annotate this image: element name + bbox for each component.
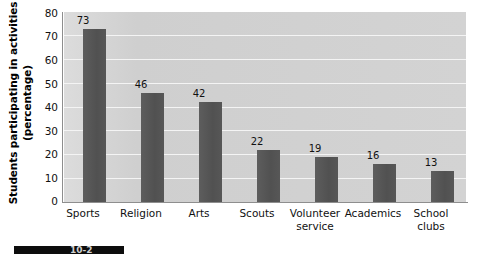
y-tick-label-70: 70 [36, 30, 58, 42]
x-tick-label-school-clubs-line-2: clubs [417, 220, 444, 232]
bar-volunteer-service[interactable] [315, 157, 338, 202]
gridline-60 [64, 59, 466, 60]
caption-text: 10-2 [70, 246, 93, 254]
y-axis-title-text: Students participating in activities(per… [6, 1, 34, 204]
x-tick-label-school-clubs: Schoolclubs [396, 207, 466, 232]
y-tick-label-0: 0 [36, 195, 58, 207]
bar-value-religion: 46 [121, 79, 161, 90]
y-tick-label-20: 20 [36, 148, 58, 160]
x-tick-label-academics-line-1: Academics [345, 207, 402, 219]
caption-bar: 10-2 [14, 246, 124, 254]
bar-value-school-clubs: 13 [411, 157, 451, 168]
y-tick-label-80: 80 [36, 7, 58, 19]
chart-screenshot: Students participating in activities(per… [0, 0, 494, 254]
x-tick-label-religion-line-1: Religion [120, 207, 162, 219]
gridline-40 [64, 107, 466, 108]
y-axis-title-line-2: (percentage) [21, 65, 33, 141]
x-tick-label-sports-line-1: Sports [66, 207, 100, 219]
y-tick-label-40: 40 [36, 101, 58, 113]
plot-area [64, 12, 466, 202]
y-tick-label-50: 50 [36, 78, 58, 90]
y-axis-line [62, 12, 63, 202]
y-tick-label-60: 60 [36, 54, 58, 66]
x-tick-label-volunteer-service-line-2: service [296, 220, 334, 232]
x-tick-label-school-clubs-line-1: School [414, 207, 449, 219]
x-axis-line [62, 202, 468, 203]
gridline-70 [64, 35, 466, 36]
x-tick-label-arts-line-1: Arts [188, 207, 209, 219]
bar-sports[interactable] [83, 29, 106, 202]
y-tick-label-10: 10 [36, 172, 58, 184]
x-tick-label-volunteer-service-line-1: Volunteer [290, 207, 340, 219]
bar-academics[interactable] [373, 164, 396, 202]
bar-scouts[interactable] [257, 150, 280, 202]
gridline-30 [64, 130, 466, 131]
bar-school-clubs[interactable] [431, 171, 454, 202]
bar-arts[interactable] [199, 102, 222, 202]
y-axis-title: Students participating in activities(per… [0, 0, 40, 205]
bar-value-sports: 73 [63, 15, 103, 26]
bar-value-arts: 42 [179, 88, 219, 99]
x-tick-label-scouts-line-1: Scouts [239, 207, 274, 219]
bar-value-volunteer-service: 19 [295, 143, 335, 154]
y-tick-label-30: 30 [36, 125, 58, 137]
bar-value-scouts: 22 [237, 136, 277, 147]
bar-religion[interactable] [141, 93, 164, 202]
y-axis-title-line-1: Students participating in activities [7, 1, 19, 204]
bar-value-academics: 16 [353, 150, 393, 161]
